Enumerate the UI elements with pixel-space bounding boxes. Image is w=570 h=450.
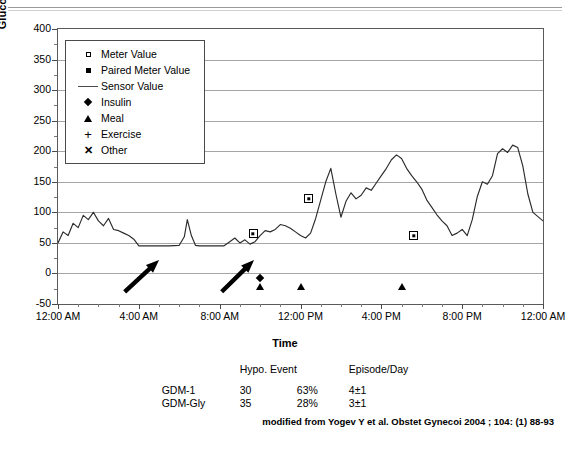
episode-day-value: 4±1 <box>349 384 409 397</box>
paired-meter-value-marker <box>249 229 258 238</box>
table-header-hypo-event: Hypo. Event <box>240 363 297 384</box>
meal-event-marker <box>297 283 305 290</box>
legend-label: Meal <box>101 112 124 124</box>
y-tick-label: 250 <box>5 115 51 125</box>
y-tick-label: -50 <box>5 298 51 308</box>
other-icon: ✕ <box>75 142 101 158</box>
legend-item[interactable]: Insulin <box>66 94 204 110</box>
x-tick-label: 12:00 AM <box>511 311 570 322</box>
legend-item[interactable]: +Exercise <box>66 126 204 142</box>
x-tick-label: 12:00 PM <box>269 311 333 322</box>
hypoglycemia-arrow-1 <box>123 260 159 293</box>
table-header-blank-2 <box>297 363 349 384</box>
table-header-row: Hypo. Event Episode/Day <box>162 363 409 384</box>
x-minor-tick <box>422 304 423 307</box>
paired-meter-value-icon <box>75 62 101 78</box>
x-axis-title: Time <box>0 337 570 349</box>
sensor-value-icon <box>75 78 101 94</box>
x-minor-tick <box>341 304 342 307</box>
exercise-icon: + <box>75 126 101 142</box>
x-tick-mark <box>220 304 221 309</box>
table-row: GDM-Gly3528%3±1 <box>162 397 409 410</box>
x-minor-tick <box>402 304 403 307</box>
legend-glyph <box>84 98 92 106</box>
legend-glyph <box>84 115 92 122</box>
y-tick-label: 50 <box>5 237 51 247</box>
legend-item[interactable]: Sensor Value <box>66 78 204 94</box>
y-tick-label: 350 <box>5 54 51 64</box>
x-minor-tick <box>482 304 483 307</box>
legend-item[interactable]: Paired Meter Value <box>66 62 204 78</box>
legend-item[interactable]: ✕Other <box>66 142 204 158</box>
legend-label: Sensor Value <box>101 80 163 92</box>
insulin-icon <box>75 94 101 110</box>
y-tick-label: 400 <box>5 23 51 33</box>
x-minor-tick <box>199 304 200 307</box>
legend-label: Paired Meter Value <box>101 64 190 76</box>
citation-text: modified from Yogev Y et al. Obstet Gyne… <box>0 416 562 427</box>
x-minor-tick <box>361 304 362 307</box>
table-body: GDM-13063%4±1GDM-Gly3528%3±1 <box>162 384 409 410</box>
legend-label: Insulin <box>101 96 131 108</box>
x-tick-mark <box>139 304 140 309</box>
episode-day-value: 3±1 <box>349 397 409 410</box>
hypoglycemia-arrows <box>123 260 254 293</box>
x-tick-label: 12:00 AM <box>26 311 90 322</box>
legend-glyph <box>86 68 91 73</box>
table-header-blank <box>162 363 240 384</box>
y-tick-label: 200 <box>5 145 51 155</box>
paired-meter-value-marker <box>409 231 418 240</box>
x-tick-label: 4:00 PM <box>349 311 413 322</box>
paired-meter-value-marker <box>304 194 313 203</box>
x-minor-tick <box>260 304 261 307</box>
table-header-episode-day: Episode/Day <box>349 363 409 384</box>
hypoglycemia-arrow-2 <box>220 260 254 293</box>
chart-page: Glucose Concentration (mg/dL) 4003503002… <box>0 0 570 450</box>
legend-label: Exercise <box>101 128 141 140</box>
x-tick-mark <box>58 304 59 309</box>
chart-figure: Glucose Concentration (mg/dL) 4003503002… <box>0 0 570 345</box>
x-tick-label: 4:00 AM <box>107 311 171 322</box>
meal-icon <box>75 110 101 126</box>
x-minor-tick <box>321 304 322 307</box>
x-minor-tick <box>523 304 524 307</box>
x-minor-tick <box>503 304 504 307</box>
x-minor-tick <box>159 304 160 307</box>
x-minor-tick <box>78 304 79 307</box>
legend-item[interactable]: Meter Value <box>66 46 204 62</box>
x-minor-tick <box>98 304 99 307</box>
y-tick-label: 100 <box>5 206 51 216</box>
x-tick-mark <box>462 304 463 309</box>
x-tick-mark <box>543 304 544 309</box>
x-minor-tick <box>442 304 443 307</box>
legend-glyph <box>86 52 91 57</box>
meal-event-marker <box>256 283 264 290</box>
x-minor-tick <box>179 304 180 307</box>
hypo-event-value: 30 <box>240 384 297 397</box>
x-minor-tick <box>280 304 281 307</box>
x-tick-mark <box>301 304 302 309</box>
y-tick-label: 0 <box>5 267 51 277</box>
hypo-event-value: 35 <box>240 397 297 410</box>
legend-label: Other <box>101 144 127 156</box>
row-label: GDM-1 <box>162 384 240 397</box>
x-tick-label: 8:00 AM <box>188 311 252 322</box>
meter-value-icon <box>75 46 101 62</box>
legend-label: Meter Value <box>101 48 157 60</box>
legend-glyph <box>78 86 98 87</box>
meal-event-marker <box>398 283 406 290</box>
y-tick-label: 300 <box>5 84 51 94</box>
chart-legend: Meter ValuePaired Meter ValueSensor Valu… <box>65 40 205 164</box>
x-minor-tick <box>119 304 120 307</box>
percent-value: 63% <box>297 384 349 397</box>
percent-value: 28% <box>297 397 349 410</box>
x-tick-label: 8:00 PM <box>430 311 494 322</box>
table-row: GDM-13063%4±1 <box>162 384 409 397</box>
row-label: GDM-Gly <box>162 397 240 410</box>
y-tick-label: 150 <box>5 176 51 186</box>
legend-item[interactable]: Meal <box>66 110 204 126</box>
x-tick-mark <box>381 304 382 309</box>
x-minor-tick <box>240 304 241 307</box>
summary-table: Hypo. Event Episode/Day GDM-13063%4±1GDM… <box>162 363 409 410</box>
summary-table-block: Hypo. Event Episode/Day GDM-13063%4±1GDM… <box>0 363 570 410</box>
